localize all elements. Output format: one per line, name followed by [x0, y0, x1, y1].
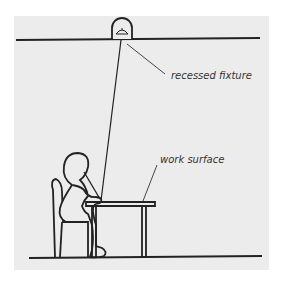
surface-leader-line: [143, 165, 157, 201]
table: [86, 202, 155, 257]
lighting-diagram: recessed fixture work surface: [0, 0, 283, 282]
fixture-leader-line: [127, 44, 165, 74]
fixture-label: recessed fixture: [171, 70, 252, 81]
recessed-fixture: [112, 18, 132, 39]
ceiling-line: [16, 38, 260, 40]
light-ray: [101, 40, 121, 201]
surface-label: work surface: [160, 154, 224, 165]
floor-line: [29, 256, 262, 258]
